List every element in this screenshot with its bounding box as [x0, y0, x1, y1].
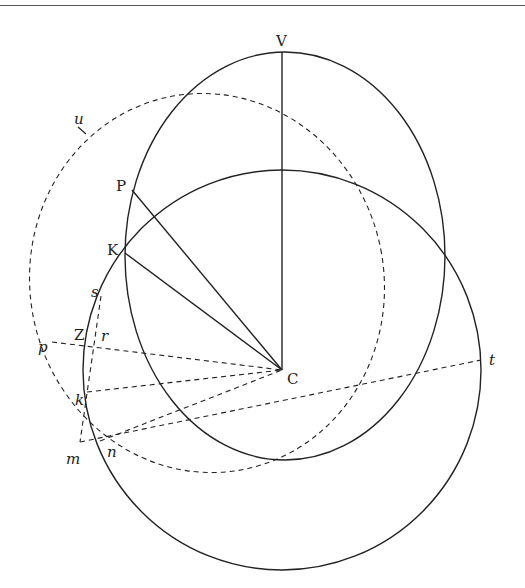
- curves-group: [0, 52, 481, 570]
- label-t: t: [489, 351, 496, 369]
- geometry-diagram: V P K C Z s r p k m n t u: [0, 0, 525, 588]
- label-k: k: [75, 391, 84, 409]
- label-m: m: [66, 450, 80, 468]
- segment-P-C: [132, 190, 282, 370]
- segment-m-t: [80, 360, 481, 442]
- dashed-ellipse: [0, 63, 417, 504]
- label-Z: Z: [74, 326, 84, 344]
- tick-u: [78, 127, 86, 134]
- label-K: K: [107, 241, 119, 259]
- label-V: V: [275, 32, 288, 50]
- ticks-group: [78, 127, 86, 134]
- label-u: u: [74, 110, 84, 128]
- label-p: p: [38, 338, 48, 356]
- segment-p-C: [52, 342, 282, 370]
- label-r: r: [101, 327, 109, 345]
- segment-K-C: [125, 253, 282, 370]
- upper-ellipse: [125, 52, 445, 460]
- label-P: P: [116, 177, 126, 195]
- segment-n-C: [100, 370, 282, 441]
- label-s: s: [91, 283, 99, 301]
- labels-group: V P K C Z s r p k m n t u: [38, 32, 496, 468]
- label-C: C: [287, 370, 298, 388]
- label-n: n: [107, 443, 117, 461]
